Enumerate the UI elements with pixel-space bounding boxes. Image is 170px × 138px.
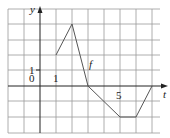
y-tick-label-1: 1 <box>29 64 35 76</box>
chart: y t 0 1 5 1 f <box>0 0 170 138</box>
x-tick-label-5: 5 <box>116 89 122 101</box>
t-axis-label: t <box>163 88 167 100</box>
curve-label-f: f <box>89 58 94 70</box>
y-axis-label: y <box>29 3 35 15</box>
x-tick-label-1: 1 <box>53 72 59 84</box>
y-axis-arrow-icon <box>38 6 43 13</box>
